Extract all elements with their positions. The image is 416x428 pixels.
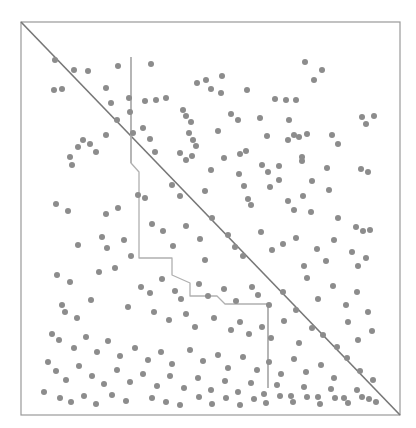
scatter-point bbox=[52, 57, 58, 63]
scatter-point bbox=[123, 398, 129, 404]
scatter-point bbox=[121, 237, 127, 243]
scatter-point bbox=[117, 353, 123, 359]
scatter-point bbox=[140, 371, 146, 377]
scatter-point bbox=[45, 359, 51, 365]
scatter-point bbox=[258, 229, 264, 235]
scatter-point bbox=[197, 236, 203, 242]
scatter-point bbox=[187, 347, 193, 353]
scatter-point bbox=[142, 195, 148, 201]
scatter-point bbox=[268, 335, 274, 341]
scatter-point bbox=[355, 263, 361, 269]
scatter-point bbox=[127, 109, 133, 115]
scatter-point bbox=[59, 302, 65, 308]
scatter-point bbox=[222, 378, 228, 384]
scatter-point bbox=[246, 331, 252, 337]
scatter-point bbox=[359, 394, 365, 400]
scatter-point bbox=[126, 95, 132, 101]
scatter-point bbox=[183, 223, 189, 229]
scatter-point bbox=[291, 207, 297, 213]
scatter-point bbox=[215, 352, 221, 358]
scatter-point bbox=[293, 97, 299, 103]
scatter-point bbox=[183, 113, 189, 119]
scatter-point bbox=[169, 361, 175, 367]
scatter-point bbox=[200, 358, 206, 364]
scatter-point bbox=[319, 67, 325, 73]
scatter-plot-figure bbox=[0, 0, 416, 428]
scatter-point bbox=[228, 111, 234, 117]
scatter-point bbox=[266, 302, 272, 308]
scatter-point bbox=[68, 399, 74, 405]
scatter-point bbox=[211, 315, 217, 321]
scatter-point bbox=[75, 144, 81, 150]
scatter-point bbox=[331, 375, 337, 381]
scatter-point bbox=[254, 367, 260, 373]
scatter-point bbox=[115, 205, 121, 211]
scatter-point bbox=[135, 192, 141, 198]
scatter-point bbox=[358, 166, 364, 172]
scatter-point bbox=[159, 276, 165, 282]
scatter-point bbox=[190, 137, 196, 143]
scatter-point bbox=[308, 209, 314, 215]
scatter-point bbox=[303, 369, 309, 375]
scatter-point bbox=[249, 284, 255, 290]
scatter-point bbox=[265, 169, 271, 175]
scatter-point bbox=[138, 284, 144, 290]
scatter-point bbox=[172, 288, 178, 294]
scatter-point bbox=[130, 130, 136, 136]
scatter-point bbox=[221, 286, 227, 292]
scatter-point bbox=[288, 393, 294, 399]
scatter-point bbox=[208, 167, 214, 173]
scatter-point bbox=[237, 319, 243, 325]
scatter-point bbox=[335, 141, 341, 147]
scatter-point bbox=[370, 377, 376, 383]
scatter-point bbox=[334, 344, 340, 350]
scatter-point bbox=[304, 275, 310, 281]
scatter-point bbox=[233, 298, 239, 304]
scatter-point bbox=[170, 243, 176, 249]
scatter-point bbox=[148, 61, 154, 67]
scatter-point bbox=[41, 389, 47, 395]
scatter-point bbox=[291, 132, 297, 138]
scatter-point bbox=[205, 293, 211, 299]
scatter-point bbox=[285, 198, 291, 204]
scatter-point bbox=[85, 68, 91, 74]
scatter-point bbox=[63, 377, 69, 383]
scatter-point bbox=[365, 309, 371, 315]
scatter-point bbox=[62, 309, 68, 315]
scatter-point bbox=[132, 345, 138, 351]
scatter-point bbox=[149, 395, 155, 401]
scatter-point bbox=[109, 392, 115, 398]
scatter-point bbox=[193, 143, 199, 149]
scatter-point bbox=[81, 393, 87, 399]
scatter-point bbox=[105, 338, 111, 344]
scatter-point bbox=[259, 162, 265, 168]
scatter-point bbox=[88, 297, 94, 303]
scatter-point bbox=[323, 258, 329, 264]
scatter-point bbox=[272, 96, 278, 102]
scatter-point bbox=[267, 184, 273, 190]
scatter-point bbox=[302, 59, 308, 65]
scatter-point bbox=[235, 389, 241, 395]
scatter-point bbox=[309, 178, 315, 184]
scatter-point bbox=[314, 246, 320, 252]
scatter-point bbox=[194, 80, 200, 86]
scatter-point bbox=[243, 148, 249, 154]
scatter-point bbox=[151, 309, 157, 315]
scatter-point bbox=[103, 211, 109, 217]
scatter-point bbox=[203, 77, 209, 83]
scatter-point bbox=[304, 394, 310, 400]
scatter-point bbox=[67, 154, 73, 160]
scatter-point bbox=[53, 368, 59, 374]
scatter-point bbox=[140, 125, 146, 131]
scatter-point bbox=[255, 292, 261, 298]
scatter-point bbox=[360, 228, 366, 234]
scatter-point bbox=[89, 373, 95, 379]
scatter-point bbox=[215, 128, 221, 134]
scatter-point bbox=[149, 221, 155, 227]
scatter-point bbox=[315, 394, 321, 400]
scatter-point bbox=[280, 289, 286, 295]
scatter-point bbox=[317, 401, 323, 407]
scatter-point bbox=[177, 193, 183, 199]
scatter-point bbox=[304, 131, 310, 137]
scatter-point bbox=[202, 188, 208, 194]
